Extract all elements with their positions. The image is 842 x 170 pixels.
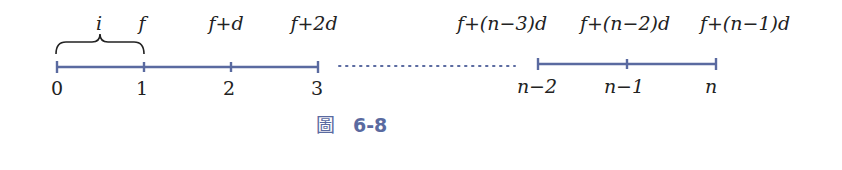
figure-caption-icon: 圖 [316, 114, 335, 136]
top-label-i: i [96, 12, 102, 34]
interval-brace [56, 34, 144, 54]
top-label-f-plus-n-3-d: f+(n−3)d [455, 12, 547, 34]
bottom-label-0: 0 [51, 77, 63, 99]
bottom-label-1: 1 [136, 77, 148, 99]
bottom-label-2: 2 [223, 77, 235, 99]
annuity-timeline-diagram: i f f+d f+2d f+(n−3)d f+(n−2)d f+(n−1)d … [0, 0, 842, 170]
top-label-f-plus-n-2-d: f+(n−2)d [578, 12, 670, 34]
top-label-f-plus-n-1-d: f+(n−1)d [698, 12, 790, 34]
bottom-label-3: 3 [311, 77, 323, 99]
top-label-f-plus-2d: f+2d [288, 12, 337, 34]
bottom-label-n: n [705, 75, 717, 97]
figure-caption: 6-8 [353, 114, 387, 136]
top-label-f: f [136, 12, 148, 34]
top-label-f-plus-d: f+d [206, 12, 243, 34]
bottom-label-n-2: n−2 [517, 75, 557, 97]
bottom-label-n-1: n−1 [604, 75, 644, 97]
